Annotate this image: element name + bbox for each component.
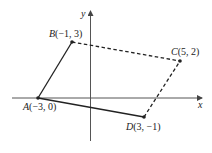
point-coords-c: (5, 2) [178, 46, 200, 58]
segment-bc [72, 42, 180, 61]
y-axis-label: y [80, 8, 86, 19]
point-label-c: C(5, 2) [171, 46, 199, 58]
point-a [36, 96, 40, 100]
segment-dc [144, 61, 180, 117]
point-label-a: A(−3, 0) [22, 101, 56, 113]
point-label-b: B(−1, 3) [49, 28, 82, 40]
x-axis-label: x [197, 99, 203, 110]
point-coords-b: (−1, 3) [55, 28, 82, 40]
point-label-d: D(3, −1) [125, 121, 161, 133]
point-d [142, 115, 146, 119]
segment-ab [38, 42, 72, 98]
point-b [70, 40, 74, 44]
point-c [178, 59, 182, 63]
point-coords-d: (3, −1) [133, 121, 160, 133]
point-coords-a: (−3, 0) [29, 101, 56, 113]
coordinate-diagram: x y A(−3, 0) B(−1, 3) C(5, 2) D(3, −1) [0, 0, 212, 153]
